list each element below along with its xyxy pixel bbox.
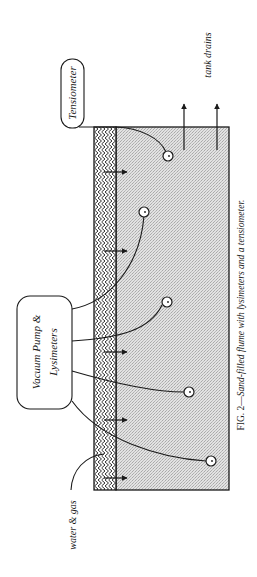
figure-caption: FIG. 2—Sand-filled flume with lysimeters… xyxy=(236,200,246,431)
tensiometer-probe xyxy=(163,151,173,161)
vacuum-pump-label-line2: Lysimeters xyxy=(47,328,59,376)
vacuum-pump-box xyxy=(17,296,72,409)
tensiometer-probe-dot xyxy=(168,155,170,157)
vacuum-pump-label-line1: Vacuum Pump & xyxy=(30,314,42,389)
tank-drains-label: tank drains xyxy=(202,32,213,77)
tensiometer-label: Tensiometer xyxy=(66,66,78,120)
flume-diagram: Tensiometer Vacuum Pump & Lysimeters tan… xyxy=(0,0,257,577)
water-gas-label: water & gas xyxy=(67,500,78,550)
sand-flume xyxy=(116,127,229,490)
caption-text: Sand-filled flume with lysimeters and a … xyxy=(236,200,246,397)
caption-prefix: FIG. 2— xyxy=(236,396,246,431)
